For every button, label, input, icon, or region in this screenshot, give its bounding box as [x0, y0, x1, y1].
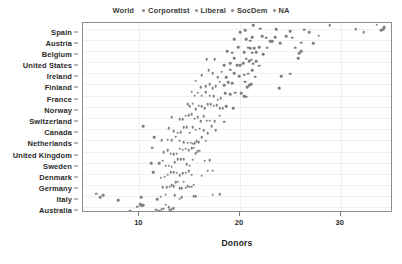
- data-point: [243, 74, 246, 77]
- data-point: [199, 120, 202, 123]
- legend-item-na[interactable]: NA: [273, 6, 290, 15]
- data-point: [212, 193, 215, 196]
- gridline-horizontal: [83, 152, 391, 153]
- data-point: [258, 46, 261, 49]
- data-point: [233, 72, 236, 75]
- y-axis-tick: [74, 76, 78, 77]
- gridline-horizontal: [83, 29, 391, 30]
- legend-item-liberal[interactable]: Liberal: [195, 6, 226, 15]
- data-point: [274, 36, 277, 39]
- data-point: [198, 127, 201, 130]
- data-point: [237, 46, 240, 49]
- data-point: [180, 196, 183, 199]
- data-point: [99, 196, 102, 199]
- data-point: [161, 159, 164, 162]
- data-point: [383, 26, 386, 29]
- data-point: [203, 107, 206, 110]
- data-point: [156, 198, 159, 201]
- data-point: [221, 70, 224, 73]
- y-axis-label-austria: Austria: [45, 38, 72, 47]
- legend-label: Corporatist: [148, 6, 190, 15]
- data-point: [190, 186, 193, 189]
- data-point: [200, 74, 203, 77]
- x-axis-tick-label: 10: [134, 218, 142, 227]
- data-point: [206, 58, 209, 61]
- data-point: [222, 107, 225, 110]
- gridline-horizontal: [83, 118, 391, 119]
- data-point: [247, 72, 250, 75]
- y-axis-label-germany: Germany: [39, 184, 72, 193]
- data-point: [190, 91, 193, 94]
- gridline-horizontal: [83, 185, 391, 186]
- data-point: [192, 146, 195, 149]
- data-point: [252, 62, 255, 65]
- legend-item-corporatist[interactable]: Corporatist: [142, 6, 190, 15]
- data-point: [219, 80, 222, 83]
- data-point: [207, 132, 210, 135]
- data-point: [202, 115, 205, 118]
- data-point: [261, 35, 264, 38]
- data-point: [194, 128, 197, 131]
- data-point: [266, 47, 269, 50]
- data-point: [102, 194, 105, 197]
- y-axis-label-canada: Canada: [44, 128, 72, 137]
- data-point: [234, 91, 237, 94]
- y-axis-label-united-kingdom: United Kingdom: [13, 150, 72, 159]
- data-point: [162, 207, 165, 210]
- data-point: [250, 58, 253, 61]
- data-point: [161, 186, 164, 189]
- gridline-horizontal: [83, 129, 391, 130]
- data-point: [200, 95, 203, 98]
- data-point: [232, 107, 235, 110]
- data-point: [244, 80, 247, 83]
- data-point: [162, 151, 165, 154]
- data-point: [291, 36, 294, 39]
- data-point: [229, 62, 232, 65]
- gridline-vertical: [240, 23, 241, 211]
- y-axis-label-norway: Norway: [44, 105, 72, 114]
- data-point: [204, 91, 207, 94]
- data-point: [328, 24, 331, 27]
- data-point: [180, 187, 183, 190]
- data-point: [231, 51, 234, 54]
- chart-legend: World Corporatist Liberal SocDem NA: [0, 6, 402, 15]
- y-axis-label-spain: Spain: [51, 27, 72, 36]
- data-point: [214, 58, 217, 61]
- gridline-horizontal: [83, 96, 391, 97]
- data-point: [255, 60, 258, 63]
- y-axis-tick: [74, 132, 78, 133]
- data-point: [196, 91, 199, 94]
- data-point: [308, 31, 311, 34]
- data-point: [194, 152, 197, 155]
- data-point: [303, 28, 306, 31]
- gridline-horizontal: [83, 73, 391, 74]
- data-point: [312, 42, 315, 45]
- gridline-horizontal: [83, 207, 391, 208]
- data-point: [153, 136, 156, 139]
- legend-item-socdem[interactable]: SocDem: [231, 6, 268, 15]
- data-point: [202, 129, 205, 132]
- data-point: [170, 165, 173, 168]
- legend-marker-icon: [195, 9, 198, 12]
- data-point: [226, 50, 229, 53]
- y-axis-label-australia: Australia: [39, 206, 72, 215]
- data-point: [238, 75, 241, 78]
- data-point: [142, 204, 145, 207]
- data-point: [223, 84, 226, 87]
- data-point: [239, 31, 242, 34]
- x-axis-tick-label: 20: [235, 218, 243, 227]
- gridline-horizontal: [83, 62, 391, 63]
- donors-scatter-figure: World Corporatist Liberal SocDem NA Spai…: [0, 0, 402, 264]
- data-point: [212, 87, 215, 90]
- data-point: [182, 158, 185, 161]
- y-axis-label-netherlands: Netherlands: [28, 139, 72, 148]
- data-point: [212, 169, 215, 172]
- gridline-horizontal: [83, 107, 391, 108]
- data-point: [249, 39, 252, 42]
- data-point: [151, 146, 154, 149]
- y-axis-tick: [74, 176, 78, 177]
- data-point: [244, 29, 247, 32]
- data-point: [209, 83, 212, 86]
- data-point: [217, 76, 220, 79]
- data-point: [239, 64, 242, 67]
